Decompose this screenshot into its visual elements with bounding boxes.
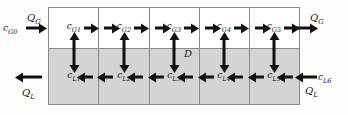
cell-grid: cG1 cG2 cG3 cG4 cG5 cL1 cL2 cL3 cL4 cL5: [48, 7, 300, 105]
liquid-flow-arrow-5: [184, 76, 193, 79]
liquid-flow-arrow-6: [205, 76, 214, 79]
liquid-flow-arrow-3: [134, 76, 143, 79]
liquid-flow-arrow-2: [104, 76, 113, 79]
gas-flow-arrow-4: [155, 27, 164, 30]
gas-flow-arrow-2: [104, 27, 113, 30]
gas-outlet-flow-subscript: G: [318, 18, 324, 26]
liquid-outlet-flow-symbol: Q: [22, 87, 30, 98]
interphase-transfer-arrow-5: [273, 39, 276, 66]
gas-flow-arrow-3: [134, 27, 142, 30]
liquid-outlet-flowrate-label: QL: [22, 88, 35, 101]
gas-flow-arrow-9: [284, 27, 293, 30]
diagram-canvas: cG1 cG2 cG3 cG4 cG5 cL1 cL2 cL3 cL4 cL5: [0, 0, 348, 115]
grid-divider-2: [149, 7, 150, 105]
liquid-outlet-arrow: [22, 76, 42, 79]
grid-divider-4: [249, 7, 250, 105]
interphase-transfer-arrow-2: [123, 39, 126, 66]
gas-flow-arrow-7: [234, 27, 242, 30]
liquid-inlet-arrow: [302, 76, 317, 79]
liquid-flow-arrow-8: [255, 76, 264, 79]
liquid-inlet-flow-subscript: L: [313, 91, 318, 99]
liquid-inlet-flow-symbol: Q: [305, 85, 313, 96]
gas-inlet-flow-symbol: Q: [27, 12, 35, 23]
gas-inlet-arrow: [26, 27, 40, 30]
diffusion-coefficient-label: D: [184, 49, 192, 59]
liquid-inlet-concentration-label: cL6: [318, 73, 332, 84]
gas-flow-arrow-8: [255, 27, 264, 30]
interphase-transfer-arrow-3: [173, 39, 176, 66]
interphase-transfer-arrow-1: [73, 39, 76, 66]
liquid-flow-arrow-9: [284, 76, 293, 79]
gas-inlet-concentration-label: cG0: [3, 24, 17, 35]
liquid-flow-arrow-4: [155, 76, 164, 79]
liquid-inlet-flowrate-label: QL: [305, 86, 318, 99]
gas-flow-arrow-5: [184, 27, 192, 30]
gas-outlet-flow-symbol: Q: [310, 12, 318, 23]
liquid-inlet-subscript: L6: [323, 77, 331, 85]
gas-inlet-subscript: G0: [8, 28, 17, 36]
gas-outlet-arrow: [296, 27, 311, 30]
interphase-transfer-arrow-4: [223, 39, 226, 66]
liquid-outlet-flow-subscript: L: [30, 93, 35, 101]
liquid-flow-arrow-7: [234, 76, 243, 79]
liquid-flow-arrow-1: [84, 76, 93, 79]
grid-divider-1: [98, 7, 99, 105]
gas-flow-arrow-6: [205, 27, 214, 30]
grid-divider-3: [199, 7, 200, 105]
gas-flow-arrow-1: [84, 27, 92, 30]
